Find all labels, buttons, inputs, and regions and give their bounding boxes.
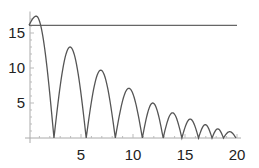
x-tick-label: 10 <box>125 146 142 163</box>
x-tick-label: 5 <box>77 146 85 163</box>
chart: 510152051015 <box>0 0 259 168</box>
x-tick-label: 15 <box>177 146 194 163</box>
y-tick-label: 15 <box>8 24 25 41</box>
axes <box>25 12 241 144</box>
x-tick-label: 20 <box>229 146 246 163</box>
y-tick-label: 5 <box>17 94 25 111</box>
bouncing-curve <box>29 16 236 138</box>
y-tick-label: 10 <box>8 59 25 76</box>
